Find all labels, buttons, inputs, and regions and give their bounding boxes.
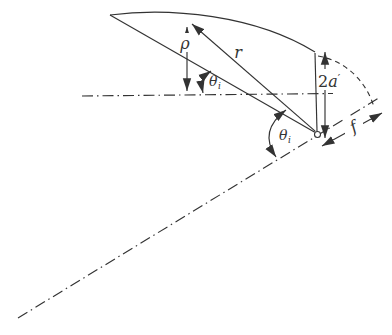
theta-lower-subscript: i [288, 135, 291, 145]
optical-axis-line [82, 94, 333, 97]
aperture-coefficient: 2 [318, 72, 328, 91]
aperture-edge-line [315, 53, 317, 131]
optics-geometry-diagram: ρ r θi θi 2a′ f [0, 0, 392, 335]
theta-upper-subscript: i [218, 81, 221, 91]
theta-lower-base: θ [279, 127, 288, 143]
theta-lower-label: θi [279, 127, 291, 145]
reflected-axis-line [18, 99, 378, 319]
radius-label: r [234, 43, 243, 62]
vertex-point-circle [315, 132, 321, 138]
aperture-symbol: a [328, 72, 338, 91]
rho-label: ρ [179, 34, 190, 53]
diagram-canvas: ρ r θi θi 2a′ f [0, 0, 392, 335]
diagram-lines [18, 12, 382, 318]
aperture-label: 2a′ [318, 72, 341, 91]
theta-upper-base: θ [209, 73, 218, 89]
theta-upper-label: θi [209, 73, 221, 91]
